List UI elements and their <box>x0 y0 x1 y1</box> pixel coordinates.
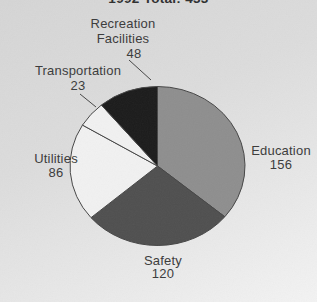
label-recreation-facilities-line2: Facilities <box>91 31 156 46</box>
label-transportation-value: 23 <box>35 78 121 93</box>
label-education-value: 156 <box>251 158 311 172</box>
label-education-name: Education <box>251 144 311 158</box>
label-recreation-facilities-line1: Recreation <box>91 16 156 31</box>
pie-chart-figure: 1992 Total: 433 Recreation Facilities 48… <box>0 0 317 302</box>
label-utilities-name: Utilities <box>34 152 78 166</box>
label-education: Education 156 <box>251 144 311 172</box>
label-transportation-name: Transportation <box>35 63 121 78</box>
label-utilities-value: 86 <box>34 166 78 180</box>
label-safety-value: 120 <box>144 267 182 280</box>
label-utilities: Utilities 86 <box>34 152 78 180</box>
label-recreation-facilities-value: 48 <box>102 46 167 61</box>
label-transportation: Transportation 23 <box>35 63 121 93</box>
label-safety: Safety 120 <box>144 254 182 280</box>
label-recreation-facilities: Recreation Facilities 48 <box>91 16 156 61</box>
